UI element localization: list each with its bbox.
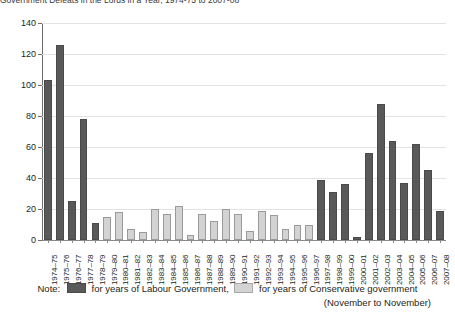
- y-tick-label-120: 120: [2, 50, 36, 59]
- x-tick-label: 1978–79: [99, 255, 107, 285]
- bar: [400, 183, 408, 240]
- bars-layer: [42, 23, 446, 240]
- x-tick-label: 1988–89: [217, 255, 225, 285]
- x-tick-label: 1993–94: [277, 255, 285, 285]
- x-tick-label: 2003–04: [396, 255, 404, 285]
- y-axis-labels: 020406080100120140: [0, 0, 36, 280]
- x-tick-mark: [214, 240, 215, 243]
- bar: [270, 215, 278, 240]
- x-tick-label: 1984–85: [170, 255, 178, 285]
- x-tick-label: 1974–75: [51, 255, 59, 285]
- x-tick-label: 1979–80: [111, 255, 119, 285]
- y-tick-label-20: 20: [2, 205, 36, 214]
- y-tick-label-100: 100: [2, 81, 36, 90]
- chart-caption: (November to November): [0, 297, 455, 309]
- x-tick-label: 1983–84: [158, 255, 166, 285]
- y-tick-label-0: 0: [2, 236, 36, 245]
- x-tick-label: 1985–86: [182, 255, 190, 285]
- x-tick-label: 1992–93: [265, 255, 273, 285]
- bar: [305, 225, 313, 241]
- x-tick-label: 1990–91: [241, 255, 249, 285]
- plot-area: [42, 23, 446, 240]
- bar: [365, 153, 373, 240]
- x-tick-mark: [131, 240, 132, 243]
- x-tick-mark: [333, 240, 334, 243]
- x-tick-mark: [369, 240, 370, 243]
- x-tick-mark: [191, 240, 192, 243]
- bar: [127, 229, 135, 240]
- y-tick-label-60: 60: [2, 143, 36, 152]
- x-tick-label: 2000–01: [360, 255, 368, 285]
- bar: [103, 217, 111, 240]
- x-tick-mark: [119, 240, 120, 243]
- x-tick-mark: [48, 240, 49, 243]
- bar: [44, 80, 52, 240]
- bar: [412, 144, 420, 240]
- x-tick-mark: [238, 240, 239, 243]
- x-tick-mark: [95, 240, 96, 243]
- x-tick-mark: [72, 240, 73, 243]
- bar: [210, 221, 218, 240]
- bar: [246, 231, 254, 240]
- bar: [151, 209, 159, 240]
- x-tick-label: 1977–78: [87, 255, 95, 285]
- x-tick-label: 1999–00: [348, 255, 356, 285]
- x-tick-mark: [167, 240, 168, 243]
- x-tick-label: 2001–02: [372, 255, 380, 285]
- bar: [68, 201, 76, 240]
- legend-note-label: Note:: [38, 283, 61, 294]
- x-tick-mark: [143, 240, 144, 243]
- x-tick-mark: [286, 240, 287, 243]
- bar: [80, 119, 88, 240]
- x-tick-mark: [107, 240, 108, 243]
- x-tick-mark: [321, 240, 322, 243]
- bar: [389, 141, 397, 240]
- x-tick-label: 1991–92: [253, 255, 261, 285]
- x-tick-label: 1980–81: [122, 255, 130, 285]
- x-tick-mark: [309, 240, 310, 243]
- bar: [329, 192, 337, 240]
- bar-chart-figure: Government Defeats in the Lords in a Yea…: [0, 0, 455, 313]
- bar: [139, 232, 147, 240]
- x-tick-mark: [274, 240, 275, 243]
- x-tick-mark: [393, 240, 394, 243]
- x-tick-label: 2004–05: [408, 255, 416, 285]
- x-tick-mark: [381, 240, 382, 243]
- x-tick-mark: [84, 240, 85, 243]
- x-tick-label: 1982–83: [146, 255, 154, 285]
- legend-label-labour: for years of Labour Government,: [92, 283, 229, 294]
- y-tick-label-40: 40: [2, 174, 36, 183]
- bar: [234, 214, 242, 240]
- x-tick-label: 1989–90: [229, 255, 237, 285]
- x-tick-label: 2005–06: [419, 255, 427, 285]
- bar: [436, 211, 444, 240]
- x-tick-mark: [226, 240, 227, 243]
- bar: [115, 212, 123, 240]
- bar: [175, 206, 183, 240]
- bar: [377, 104, 385, 240]
- bar: [258, 211, 266, 240]
- y-tick-label-140: 140: [2, 19, 36, 28]
- chart-title: Government Defeats in the Lords in a Yea…: [0, 0, 455, 4]
- x-tick-mark: [357, 240, 358, 243]
- x-tick-label: 1997–98: [324, 255, 332, 285]
- x-tick-label: 2002–03: [384, 255, 392, 285]
- x-tick-label: 1994–95: [289, 255, 297, 285]
- chart-legend: Note: for years of Labour Government, fo…: [0, 283, 455, 295]
- x-tick-mark: [416, 240, 417, 243]
- gridline-0: [42, 240, 446, 241]
- bar: [198, 214, 206, 240]
- x-tick-label: 1975–76: [63, 255, 71, 285]
- legend-swatch-labour: [67, 283, 86, 293]
- bar: [341, 184, 349, 240]
- x-tick-mark: [155, 240, 156, 243]
- bar: [424, 170, 432, 240]
- legend-swatch-conservative: [234, 283, 253, 293]
- x-tick-label: 1995–96: [301, 255, 309, 285]
- bar: [56, 45, 64, 240]
- bar: [222, 209, 230, 240]
- x-tick-mark: [262, 240, 263, 243]
- x-tick-mark: [60, 240, 61, 243]
- bar: [294, 225, 302, 241]
- x-tick-mark: [440, 240, 441, 243]
